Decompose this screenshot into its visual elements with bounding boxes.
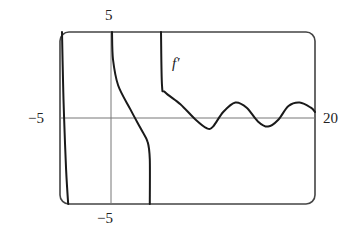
- y-max-label: 5: [105, 8, 113, 23]
- function-label: f′: [172, 56, 179, 71]
- curve-branch-3: [161, 32, 315, 129]
- chart-canvas: [0, 0, 352, 230]
- x-max-label: 20: [323, 111, 338, 126]
- y-min-label: −5: [97, 211, 113, 226]
- x-min-label: −5: [28, 111, 44, 126]
